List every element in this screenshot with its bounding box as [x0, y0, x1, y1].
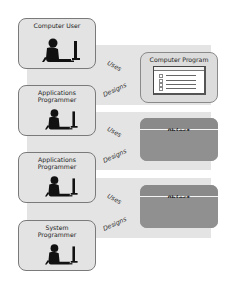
window-list-icon: [153, 66, 206, 95]
actor-label: Computer User: [19, 22, 95, 29]
actor-label-line: System: [45, 224, 68, 231]
person-at-computer-icon: [41, 243, 85, 267]
list-row: [159, 74, 201, 77]
actor-label-line: Programmer: [38, 96, 76, 103]
list-line: [166, 84, 196, 85]
window-titlebar: [154, 67, 204, 71]
actor-label: System Programmer: [19, 224, 95, 239]
actor-label-line: Applications: [38, 89, 76, 96]
list-row: [159, 79, 201, 82]
actor-label-line: Applications: [38, 156, 76, 163]
actor-label-line: Programmer: [38, 231, 76, 238]
checkbox-icon: [159, 87, 163, 91]
object-header: Object: [140, 185, 218, 197]
object-body: [140, 198, 218, 229]
computer-program-title: Computer Program: [141, 56, 217, 63]
actor-system-programmer: System Programmer: [18, 220, 96, 271]
object-body: [140, 131, 218, 162]
list-row: [159, 83, 201, 86]
actor-label: Applications Programmer: [19, 89, 95, 104]
list-line: [166, 75, 196, 76]
object-header: Object: [140, 118, 218, 130]
person-at-computer-icon: [41, 108, 85, 132]
checkbox-icon: [159, 74, 163, 78]
actor-label: Applications Programmer: [19, 156, 95, 171]
actor-applications-programmer: Applications Programmer: [18, 152, 96, 203]
object-box: Object: [140, 185, 218, 228]
person-at-computer-icon: [41, 37, 85, 65]
actor-label-line: Programmer: [38, 163, 76, 170]
person-at-computer-icon: [41, 175, 85, 199]
actor-applications-programmer: Applications Programmer: [18, 85, 96, 136]
list-line: [166, 80, 196, 81]
actor-computer-user: Computer User: [18, 18, 96, 69]
object-box: Object: [140, 118, 218, 161]
list-line: [166, 88, 196, 89]
list-row: [159, 87, 201, 90]
computer-program-box: Computer Program: [140, 52, 218, 103]
actor-label-line: Computer User: [34, 22, 81, 29]
